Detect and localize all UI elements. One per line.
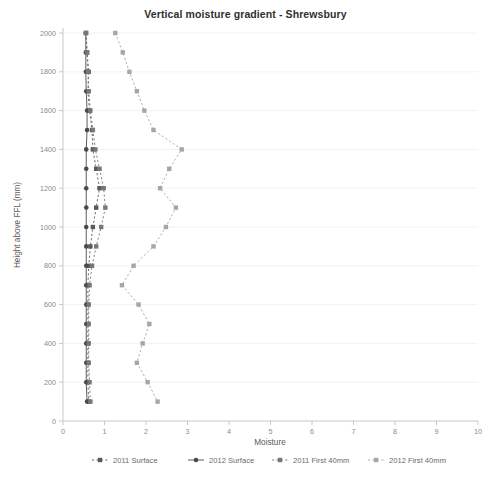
x-axis-label: Moisture <box>254 438 286 447</box>
data-point-marker <box>151 244 155 248</box>
y-axis-tick-label: 200 <box>44 378 56 387</box>
y-axis-tick-label: 400 <box>44 339 56 348</box>
data-point-marker <box>164 225 168 229</box>
data-point-marker <box>145 380 149 384</box>
data-point-marker <box>84 147 89 152</box>
data-point-marker <box>88 108 92 112</box>
x-axis-tick-label: 8 <box>393 427 397 436</box>
series-4 <box>113 31 184 404</box>
series-3 <box>84 31 107 404</box>
data-point-marker <box>86 70 90 74</box>
data-point-marker <box>87 361 91 365</box>
legend-marker-square-icon <box>278 458 282 462</box>
series-line <box>86 33 105 402</box>
data-point-marker <box>97 186 101 190</box>
data-point-marker <box>87 283 91 287</box>
data-point-marker <box>155 399 159 403</box>
y-axis: 0200400600800100012001400160018002000 <box>40 28 63 426</box>
data-point-marker <box>94 205 98 209</box>
y-axis-tick-label: 1000 <box>40 223 56 232</box>
x-axis: 012345678910 <box>61 421 482 436</box>
chart-plot-area: 0200400600800100012001400160018002000 01… <box>0 0 491 477</box>
data-point-marker <box>84 225 89 230</box>
data-point-marker <box>179 147 183 151</box>
y-axis-label: Height above FFL (mm) <box>13 182 22 268</box>
legend-item-label: 2012 Surface <box>209 456 254 465</box>
data-point-marker <box>87 341 91 345</box>
chart-container: Vertical moisture gradient - Shrewsbury … <box>0 0 491 477</box>
data-point-marker <box>88 244 92 248</box>
data-point-marker <box>91 225 95 229</box>
data-point-marker <box>84 264 89 269</box>
data-point-marker <box>84 244 89 249</box>
data-point-marker <box>167 167 171 171</box>
y-axis-tick-label: 800 <box>44 261 56 270</box>
data-point-marker <box>121 50 125 54</box>
legend-item-2[interactable]: 2012 Surface <box>188 456 254 465</box>
data-point-marker <box>135 89 139 93</box>
x-axis-tick-label: 5 <box>269 427 273 436</box>
y-axis-tick-label: 0 <box>52 417 56 426</box>
data-point-marker <box>93 147 97 151</box>
x-axis-tick-label: 10 <box>474 427 482 436</box>
y-axis-tick-label: 600 <box>44 300 56 309</box>
data-point-marker <box>158 186 162 190</box>
data-point-marker <box>127 70 131 74</box>
series-line <box>86 33 87 402</box>
data-point-marker <box>101 186 105 190</box>
x-axis-tick-label: 2 <box>144 427 148 436</box>
data-point-marker <box>142 108 146 112</box>
x-axis-tick-label: 1 <box>103 427 107 436</box>
legend: 2011 Surface2012 Surface2011 First 40mm2… <box>92 456 446 465</box>
x-axis-tick-label: 6 <box>310 427 314 436</box>
data-point-marker <box>87 380 91 384</box>
data-point-marker <box>91 128 95 132</box>
data-point-marker <box>151 128 155 132</box>
data-point-marker <box>85 128 90 133</box>
y-axis-tick-label: 1600 <box>40 106 56 115</box>
legend-marker-square-icon <box>98 458 102 462</box>
data-point-marker <box>84 205 89 210</box>
data-point-marker <box>87 89 91 93</box>
y-axis-tick-label: 1800 <box>40 67 56 76</box>
data-point-marker <box>97 167 101 171</box>
legend-marker-square-icon <box>374 458 378 462</box>
data-point-marker <box>147 322 151 326</box>
data-point-marker <box>87 322 91 326</box>
y-axis-tick-label: 2000 <box>40 29 56 38</box>
series-line <box>86 33 100 402</box>
data-point-marker <box>88 399 92 403</box>
data-point-marker <box>84 31 88 35</box>
legend-item-4[interactable]: 2012 First 40mm <box>368 456 446 465</box>
x-axis-tick-label: 7 <box>352 427 356 436</box>
series-line <box>115 33 181 402</box>
legend-item-label: 2011 First 40mm <box>293 456 349 465</box>
x-axis-tick-label: 4 <box>227 427 231 436</box>
data-point-marker <box>94 244 98 248</box>
data-point-marker <box>174 205 178 209</box>
legend-item-label: 2011 Surface <box>113 456 158 465</box>
data-point-marker <box>103 205 107 209</box>
data-point-marker <box>85 50 89 54</box>
data-point-marker <box>87 302 91 306</box>
legend-item-label: 2012 First 40mm <box>389 456 446 465</box>
grid-lines <box>63 33 478 382</box>
data-point-marker <box>120 283 124 287</box>
data-point-marker <box>140 341 144 345</box>
data-point-marker <box>84 167 89 172</box>
y-axis-tick-label: 1400 <box>40 145 56 154</box>
x-axis-tick-label: 3 <box>186 427 190 436</box>
data-point-marker <box>84 186 89 191</box>
legend-item-3[interactable]: 2011 First 40mm <box>272 456 349 465</box>
data-point-marker <box>99 225 103 229</box>
data-point-marker <box>113 31 117 35</box>
series-layer <box>84 31 184 404</box>
data-point-marker <box>131 264 135 268</box>
legend-item-1[interactable]: 2011 Surface <box>92 456 158 465</box>
y-axis-tick-label: 1200 <box>40 184 56 193</box>
data-point-marker <box>136 302 140 306</box>
x-axis-tick-label: 9 <box>435 427 439 436</box>
data-point-marker <box>90 264 94 268</box>
x-axis-tick-label: 0 <box>61 427 65 436</box>
data-point-marker <box>135 361 139 365</box>
